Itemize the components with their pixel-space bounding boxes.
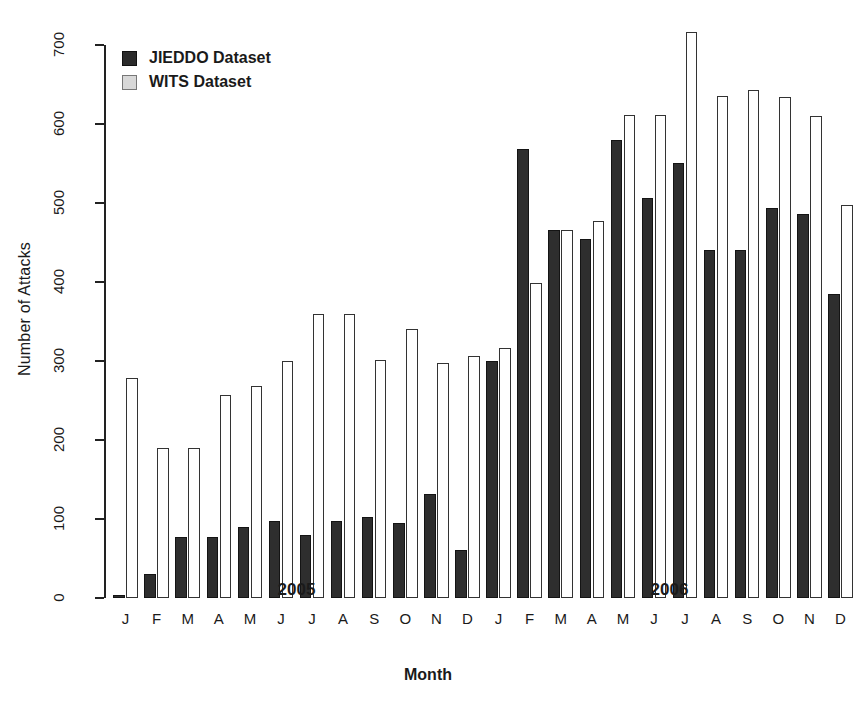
bar-wits	[188, 448, 200, 598]
bar-wits	[655, 115, 667, 598]
x-axis-month-label: M	[176, 610, 200, 627]
year-group-label: 2006	[625, 580, 715, 600]
y-axis-tick	[95, 281, 104, 283]
x-axis-label: Month	[0, 666, 856, 684]
bar-pair	[704, 45, 729, 598]
bar-pair	[611, 45, 636, 598]
y-axis-tick-labels: 0100200300400500600700	[0, 45, 104, 598]
legend-swatch-icon-wits	[122, 75, 137, 90]
x-axis-month-label: M	[549, 610, 573, 627]
x-axis-month-label: J	[642, 610, 666, 627]
bar-jieddo	[766, 208, 778, 598]
legend-label-jieddo: JIEDDO Dataset	[149, 49, 271, 67]
y-axis-tick	[95, 202, 104, 204]
bar-wits	[561, 230, 573, 598]
bar-jieddo	[517, 149, 529, 598]
bar-jieddo	[548, 230, 560, 598]
bar-wits	[841, 205, 853, 598]
bar-jieddo	[486, 361, 498, 598]
bar-wits	[157, 448, 169, 598]
y-axis-tick	[95, 518, 104, 520]
x-axis-month-label: O	[393, 610, 417, 627]
y-axis-tick	[95, 360, 104, 362]
x-axis-month-label: A	[704, 610, 728, 627]
bar-jieddo	[704, 250, 716, 598]
bar-wits	[375, 360, 387, 598]
bar-pair	[269, 45, 294, 598]
bar-jieddo	[642, 198, 654, 598]
bar-pair	[797, 45, 822, 598]
bar-wits	[468, 356, 480, 598]
bar-wits	[282, 361, 294, 598]
bar-wits	[530, 283, 542, 598]
year-group-label: 2005	[252, 580, 342, 600]
bar-pair	[300, 45, 325, 598]
bar-pair	[393, 45, 418, 598]
bar-jieddo	[673, 163, 685, 598]
bar-wits	[624, 115, 636, 598]
x-axis-month-label: M	[611, 610, 635, 627]
y-axis-spine	[104, 45, 106, 598]
y-axis-tick	[95, 44, 104, 46]
bar-pair	[362, 45, 387, 598]
y-axis-tick-label: 400	[50, 252, 67, 312]
legend-swatch-icon-jieddo	[122, 51, 137, 66]
bar-pair	[455, 45, 480, 598]
bar-wits	[717, 96, 729, 598]
bar-pair	[486, 45, 511, 598]
x-axis-month-label: A	[331, 610, 355, 627]
bar-pair	[735, 45, 760, 598]
y-axis-tick-label: 0	[50, 568, 67, 628]
y-axis-tick	[95, 439, 104, 441]
y-axis-tick	[95, 123, 104, 125]
x-axis-month-label: S	[735, 610, 759, 627]
bar-pair	[766, 45, 791, 598]
x-axis-month-labels: JFMAMJJASONDJFMAMJJASOND	[104, 610, 850, 636]
bar-pair	[548, 45, 573, 598]
y-axis-tick-label: 200	[50, 410, 67, 470]
chart-legend: JIEDDO Dataset WITS Dataset	[122, 46, 382, 94]
bar-pair	[331, 45, 356, 598]
y-axis-tick-label: 300	[50, 331, 67, 391]
legend-item-wits: WITS Dataset	[122, 70, 382, 94]
bar-pair	[144, 45, 169, 598]
x-axis-month-label: J	[300, 610, 324, 627]
bar-jieddo	[611, 140, 623, 598]
x-axis-month-label: A	[207, 610, 231, 627]
bar-pair	[238, 45, 263, 598]
bar-wits	[437, 363, 449, 598]
x-axis-month-label: M	[238, 610, 262, 627]
bar-jieddo	[735, 250, 747, 598]
bar-jieddo	[580, 239, 592, 598]
x-axis-month-label: J	[114, 610, 138, 627]
x-axis-month-label: J	[269, 610, 293, 627]
x-axis-month-label: N	[424, 610, 448, 627]
bar-chart-figure: Number of Attacks 0100200300400500600700…	[0, 0, 856, 716]
bar-pair	[175, 45, 200, 598]
bar-pair	[673, 45, 698, 598]
bar-jieddo	[828, 294, 840, 598]
x-axis-month-label: J	[673, 610, 697, 627]
x-axis-month-label: J	[487, 610, 511, 627]
bar-wits	[779, 97, 791, 598]
legend-label-wits: WITS Dataset	[149, 73, 251, 91]
bar-wits	[344, 314, 356, 598]
x-axis-month-label: S	[362, 610, 386, 627]
bar-wits	[810, 116, 822, 598]
y-axis-tick-label: 700	[50, 15, 67, 75]
bar-wits	[406, 329, 418, 598]
x-axis-month-label: F	[145, 610, 169, 627]
legend-item-jieddo: JIEDDO Dataset	[122, 46, 382, 70]
bar-pair	[580, 45, 605, 598]
bar-wits	[220, 395, 232, 598]
x-axis-month-label: D	[828, 610, 852, 627]
bar-pair	[517, 45, 542, 598]
bar-wits	[593, 221, 605, 598]
y-axis-tick	[95, 597, 104, 599]
x-axis-month-label: O	[766, 610, 790, 627]
year-group-labels: 20052006	[104, 580, 850, 604]
y-axis-tick-label: 500	[50, 173, 67, 233]
x-axis-month-label: N	[797, 610, 821, 627]
bar-wits	[686, 32, 698, 598]
bar-wits	[251, 386, 263, 599]
